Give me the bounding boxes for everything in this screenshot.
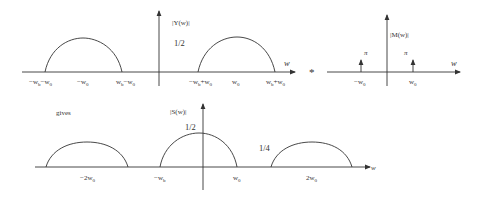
y-axis-label: |S(w)| bbox=[170, 108, 186, 116]
tick-label: w0 bbox=[409, 78, 417, 87]
lobe-positive bbox=[198, 37, 275, 72]
plot-y-spectrum: |Y(w)| 1/2 w −wb−w0 −w0 wb−w0 −wb+w0 w0 … bbox=[22, 11, 295, 87]
impulse-weight-label: π bbox=[364, 49, 368, 57]
tick-label: wb+w0 bbox=[266, 78, 286, 87]
tick-label: −2w0 bbox=[80, 174, 96, 183]
modulation-diagram: |Y(w)| 1/2 w −wb−w0 −w0 wb−w0 −wb+w0 w0 … bbox=[0, 0, 479, 197]
tick-label: −w0 bbox=[354, 78, 366, 87]
gives-label: gives bbox=[56, 109, 71, 117]
tick-label: −wb+w0 bbox=[189, 78, 213, 87]
tick-label: w0 bbox=[232, 78, 240, 87]
lobe-center bbox=[160, 133, 237, 167]
impulse-weight-label: π bbox=[404, 49, 408, 57]
amplitude-label: 1/2 bbox=[174, 38, 185, 48]
plot-m-spectrum: |M(w)| π π w −w0 w0 bbox=[327, 15, 460, 87]
tick-label: wb−w0 bbox=[116, 78, 136, 87]
tick-label: 2w0 bbox=[306, 174, 318, 183]
tick-label: −wb bbox=[154, 174, 166, 183]
lobe-negative bbox=[45, 38, 122, 72]
plot-s-spectrum: |S(w)| 1/2 1/4 w −2w0 −wb w0 2w0 bbox=[35, 104, 376, 190]
y-axis-label: |Y(w)| bbox=[172, 19, 190, 27]
lobe-right bbox=[271, 142, 352, 167]
x-axis-label: w bbox=[451, 58, 457, 68]
side-amplitude-label: 1/4 bbox=[259, 143, 271, 153]
x-axis-label: w bbox=[284, 58, 290, 68]
tick-label: −wb−w0 bbox=[29, 78, 53, 87]
center-amplitude-label: 1/2 bbox=[185, 122, 196, 132]
tick-label: −w0 bbox=[77, 78, 89, 87]
y-axis-label: |M(w)| bbox=[390, 31, 409, 39]
convolution-operator: * bbox=[309, 66, 315, 78]
x-axis-label: w bbox=[371, 164, 376, 172]
tick-label: w0 bbox=[233, 174, 241, 183]
lobe-left bbox=[46, 142, 128, 167]
